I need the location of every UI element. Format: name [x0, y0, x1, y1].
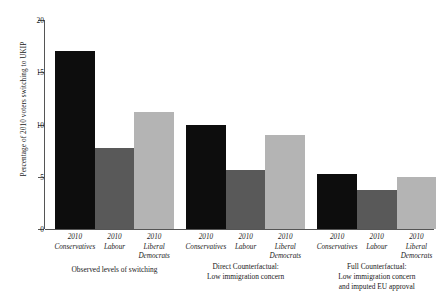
y-axis-tick-label: 15 [14, 68, 44, 77]
y-axis-tick-label: 0 [14, 225, 44, 234]
x-axis-baseline [45, 229, 434, 230]
group-caption-line: Low immigration concern [301, 272, 436, 282]
bar [397, 177, 436, 229]
x-axis-label-year: 2010 [259, 233, 311, 243]
group-caption-line: Full Counterfactual: [301, 262, 436, 272]
bar [134, 112, 174, 229]
bar [95, 148, 135, 230]
plot-area [45, 20, 435, 229]
group-caption-line: Direct Counterfactual: [170, 262, 321, 272]
y-axis-tick-label: 20 [14, 16, 44, 25]
bar [357, 190, 397, 229]
bar [55, 51, 95, 229]
group-caption: Full Counterfactual:Low immigration conc… [301, 262, 436, 291]
bar [265, 135, 305, 229]
bar-chart: Percentage of 2010 voters switching to U… [0, 0, 436, 299]
bar [186, 125, 226, 230]
x-axis-tick-label: 2010Liberal Democrats [128, 233, 180, 262]
bar [317, 174, 357, 229]
x-axis-label-party: Liberal Democrats [391, 243, 436, 262]
x-axis-label-party: Liberal Democrats [128, 243, 180, 262]
x-axis-label-party: Liberal Democrats [259, 243, 311, 262]
group-caption-line: Low immigration concern [170, 272, 321, 282]
x-axis-tick-label: 2010Liberal Democrats [391, 233, 436, 262]
y-axis-tick-label: 5 [14, 172, 44, 181]
group-caption: Direct Counterfactual:Low immigration co… [170, 262, 321, 282]
group-caption-line: Observed levels of switching [39, 265, 190, 275]
group-caption-line: and imputed EU approval [301, 282, 436, 292]
x-axis-tick-label: 2010Liberal Democrats [259, 233, 311, 262]
y-axis-tick-label: 10 [14, 120, 44, 129]
bar [226, 170, 266, 229]
x-axis-label-year: 2010 [128, 233, 180, 243]
x-axis-label-year: 2010 [391, 233, 436, 243]
group-caption: Observed levels of switching [39, 265, 190, 275]
